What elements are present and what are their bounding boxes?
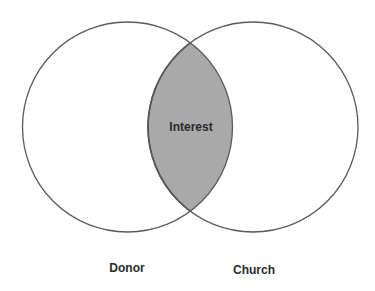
intersection-label: Interest	[169, 120, 212, 134]
set-label-church: Church	[233, 263, 275, 277]
venn-diagram	[0, 0, 375, 291]
set-label-donor: Donor	[109, 261, 144, 275]
